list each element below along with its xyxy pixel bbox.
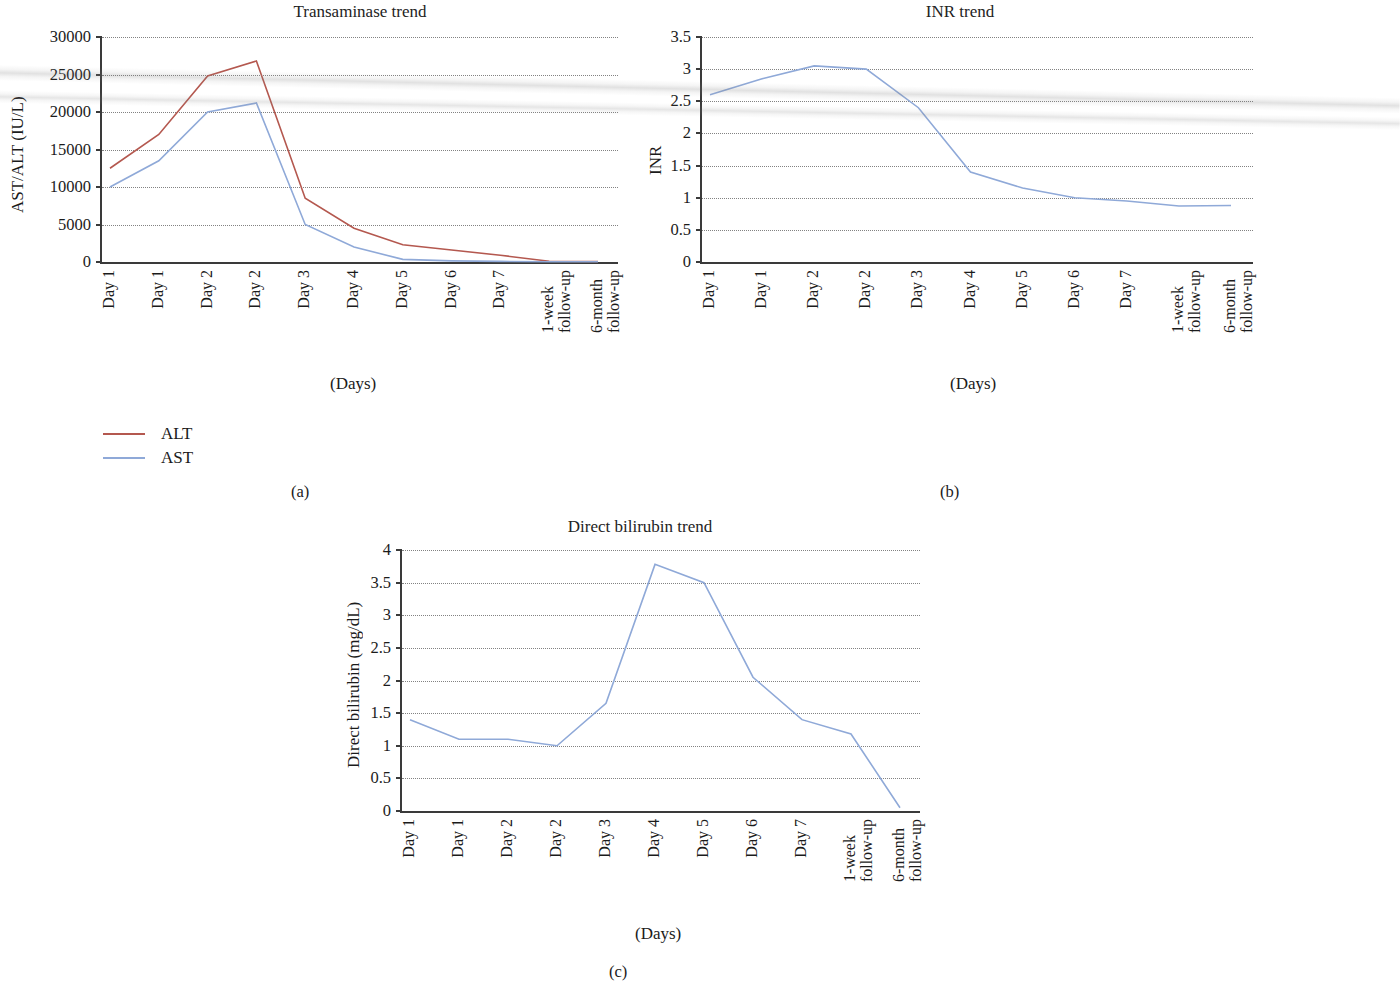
x-axis-tick-label: 6-monthfollow-up bbox=[1222, 270, 1255, 333]
y-axis-tick-label: 2 bbox=[383, 671, 398, 691]
x-axis-tick-label: Day 1 bbox=[401, 819, 418, 858]
series-layer bbox=[702, 37, 1253, 262]
y-axis-tick-label: 5000 bbox=[58, 215, 98, 235]
x-axis-tick-label: Day 6 bbox=[744, 819, 761, 858]
x-axis-tick-label: Day 2 bbox=[199, 270, 216, 309]
x-axis-tick-label: Day 4 bbox=[962, 270, 979, 309]
x-axis-tick-label: Day 7 bbox=[1118, 270, 1135, 309]
x-axis-tick-label: 1-weekfollow-up bbox=[842, 819, 875, 882]
x-axis-tick-label: Day 1 bbox=[701, 270, 718, 309]
y-axis-tick-label: 20000 bbox=[50, 102, 98, 122]
chart-title-c: Direct bilirubin trend bbox=[390, 517, 890, 537]
y-axis-tick-label: 30000 bbox=[50, 27, 98, 47]
y-axis-label-b: INR bbox=[646, 130, 666, 190]
y-axis-tick-label: 1 bbox=[683, 188, 698, 208]
y-axis-tick-label: 1.5 bbox=[670, 156, 698, 176]
x-axis-tick-label: Day 6 bbox=[443, 270, 460, 309]
x-axis-tick-label: Day 2 bbox=[857, 270, 874, 309]
legend-label-ast: AST bbox=[161, 448, 193, 468]
x-axis-tick-label: Day 3 bbox=[296, 270, 313, 309]
y-axis-label-a: AST/ALT (IU/L) bbox=[8, 60, 28, 250]
x-axis-tick-label: 6-monthfollow-up bbox=[589, 270, 622, 333]
x-axis-caption-b: (Days) bbox=[950, 374, 996, 394]
series-line-direct-bilirubin bbox=[410, 564, 900, 807]
y-axis-tick-label: 3 bbox=[383, 605, 398, 625]
y-axis-tick-label: 0 bbox=[83, 252, 98, 272]
x-axis-tick-label: 6-monthfollow-up bbox=[891, 819, 924, 882]
y-axis-tick-label: 3.5 bbox=[370, 573, 398, 593]
x-axis-tick-label: Day 6 bbox=[1066, 270, 1083, 309]
x-axis-tick-label: Day 5 bbox=[1014, 270, 1031, 309]
x-axis-caption-a: (Days) bbox=[330, 374, 376, 394]
y-axis-tick-label: 2.5 bbox=[670, 91, 698, 111]
legend-swatch-ast bbox=[103, 457, 145, 459]
x-axis-caption-c: (Days) bbox=[635, 924, 681, 944]
y-axis-tick-label: 0 bbox=[683, 252, 698, 272]
x-axis-tick-label: Day 4 bbox=[646, 819, 663, 858]
x-axis-tick-label: Day 7 bbox=[491, 270, 508, 309]
legend-item-alt: ALT bbox=[103, 422, 193, 446]
x-axis-tick-label: Day 7 bbox=[793, 819, 810, 858]
plot-area-c: 00.511.522.533.54Day 1Day 1Day 2Day 2Day… bbox=[400, 550, 920, 813]
legend-label-alt: ALT bbox=[161, 424, 193, 444]
x-axis-tick-label: Day 3 bbox=[909, 270, 926, 309]
x-axis-tick-label: Day 2 bbox=[805, 270, 822, 309]
y-axis-tick-label: 15000 bbox=[50, 140, 98, 160]
subcaption-c: (c) bbox=[609, 962, 627, 982]
x-axis-tick-label: Day 3 bbox=[597, 819, 614, 858]
x-axis-tick-label: Day 2 bbox=[247, 270, 264, 309]
y-axis-tick-label: 0.5 bbox=[670, 220, 698, 240]
x-axis-tick-label: Day 5 bbox=[695, 819, 712, 858]
y-axis-tick-label: 3 bbox=[683, 59, 698, 79]
legend-swatch-alt bbox=[103, 433, 145, 435]
x-axis-tick-label: Day 5 bbox=[394, 270, 411, 309]
series-line-inr bbox=[710, 66, 1231, 206]
y-axis-label-c: Direct bilirubin (mg/dL) bbox=[344, 557, 364, 812]
y-axis-tick-label: 2 bbox=[683, 123, 698, 143]
x-axis-tick-label: Day 2 bbox=[499, 819, 516, 858]
y-axis-tick-label: 1 bbox=[383, 736, 398, 756]
chart-title-a: Transaminase trend bbox=[100, 2, 620, 22]
x-axis-tick-label: Day 1 bbox=[450, 819, 467, 858]
x-axis-tick-label: Day 1 bbox=[753, 270, 770, 309]
panel-inr: INR trend INR 00.511.522.533.5Day 1Day 1… bbox=[640, 0, 1267, 505]
plot-area-a: 050001000015000200002500030000Day 1Day 1… bbox=[100, 37, 618, 264]
y-axis-tick-label: 10000 bbox=[50, 177, 98, 197]
chart-title-b: INR trend bbox=[700, 2, 1220, 22]
series-layer bbox=[402, 550, 920, 811]
x-axis-tick-label: 1-weekfollow-up bbox=[540, 270, 573, 333]
x-axis-tick-label: Day 1 bbox=[101, 270, 118, 309]
legend-a: ALTAST bbox=[103, 422, 193, 470]
series-layer bbox=[102, 37, 618, 262]
series-line-ast bbox=[110, 103, 598, 262]
x-axis-tick-label: Day 2 bbox=[548, 819, 565, 858]
y-axis-tick-label: 1.5 bbox=[370, 703, 398, 723]
x-axis-tick-label: Day 4 bbox=[345, 270, 362, 309]
y-axis-tick-label: 4 bbox=[383, 540, 398, 560]
subcaption-a: (a) bbox=[291, 482, 309, 502]
panel-transaminase: Transaminase trend AST/ALT (IU/L) 050001… bbox=[0, 0, 640, 505]
y-axis-tick-label: 25000 bbox=[50, 65, 98, 85]
subcaption-b: (b) bbox=[940, 482, 959, 502]
y-axis-tick-label: 3.5 bbox=[670, 27, 698, 47]
series-line-alt bbox=[110, 61, 598, 262]
y-axis-tick-label: 0.5 bbox=[370, 768, 398, 788]
y-axis-tick-label: 2.5 bbox=[370, 638, 398, 658]
panel-bilirubin: Direct bilirubin trend Direct bilirubin … bbox=[330, 515, 970, 977]
y-axis-tick-label: 0 bbox=[383, 801, 398, 821]
x-axis-tick-label: Day 1 bbox=[150, 270, 167, 309]
x-axis-tick-label: 1-weekfollow-up bbox=[1170, 270, 1203, 333]
legend-item-ast: AST bbox=[103, 446, 193, 470]
plot-area-b: 00.511.522.533.5Day 1Day 1Day 2Day 2Day … bbox=[700, 37, 1253, 264]
